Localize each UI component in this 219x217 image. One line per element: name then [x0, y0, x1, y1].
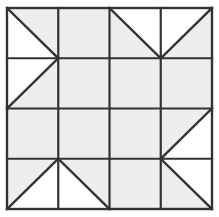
quilt-block-figure: Geometric Quilt Block Pattern Four-by-fo… — [0, 0, 219, 217]
pattern-canvas — [0, 0, 219, 217]
